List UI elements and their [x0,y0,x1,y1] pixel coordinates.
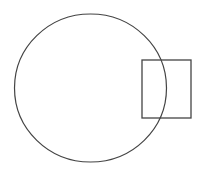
circle-shape [15,14,167,162]
diagram-canvas [0,0,205,178]
